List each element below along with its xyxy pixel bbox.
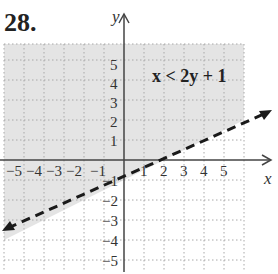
svg-text:−5: −5 [102, 253, 118, 269]
svg-text:2: 2 [110, 114, 118, 130]
svg-text:−4: −4 [102, 233, 118, 249]
svg-text:3: 3 [180, 163, 188, 179]
svg-text:4: 4 [110, 76, 118, 92]
svg-text:−3: −3 [102, 213, 118, 229]
svg-text:−4: −4 [26, 163, 42, 179]
svg-text:4: 4 [200, 163, 208, 179]
inequality-graph: y x x < 2y + 1 −5 −4 −3 −2 −1 1 2 3 4 5 … [0, 0, 278, 274]
svg-text:5: 5 [110, 57, 118, 73]
x-axis-label: x [263, 169, 272, 188]
svg-text:2: 2 [160, 163, 168, 179]
y-axis-label: y [110, 7, 120, 26]
svg-text:1: 1 [140, 163, 148, 179]
svg-text:−3: −3 [46, 163, 62, 179]
svg-text:−2: −2 [66, 163, 82, 179]
svg-text:5: 5 [220, 163, 228, 179]
svg-text:−2: −2 [102, 193, 118, 209]
svg-text:1: 1 [110, 133, 118, 149]
inequality-label: x < 2y + 1 [152, 66, 227, 86]
svg-text:−1: −1 [102, 173, 118, 189]
svg-text:−5: −5 [6, 163, 22, 179]
svg-text:3: 3 [110, 95, 118, 111]
